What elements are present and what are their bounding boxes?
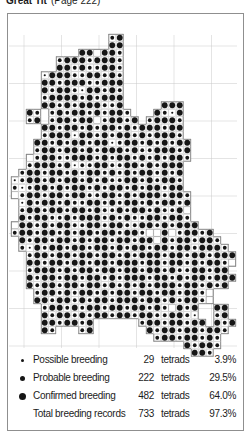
- legend-label: Confirmed breeding: [33, 389, 115, 403]
- legend-unit: tetrads: [161, 389, 189, 403]
- legend-label: Probable breeding: [33, 371, 110, 385]
- legend-count: 222: [112, 371, 154, 385]
- legend-count: 482: [112, 389, 154, 403]
- legend-row-total: Total breeding records 733 tetrads 97.3%: [7, 407, 236, 421]
- confirmed-dot-icon: [16, 389, 28, 403]
- legend-label: Possible breeding: [33, 353, 107, 367]
- legend-percentage: 3.9%: [190, 353, 236, 367]
- legend-percentage: 64.0%: [190, 389, 236, 403]
- no-symbol: [16, 407, 28, 421]
- legend-unit: tetrads: [161, 353, 189, 367]
- probable-dot-icon: [16, 371, 28, 385]
- legend-percentage: 29.5%: [190, 371, 236, 385]
- legend-unit: tetrads: [161, 371, 189, 385]
- possible-dot-icon: [16, 353, 28, 367]
- legend-count: 733: [112, 407, 154, 421]
- legend-row-confirmed: Confirmed breeding 482 tetrads 64.0%: [7, 389, 236, 403]
- legend: Possible breeding 29 tetrads 3.9% Probab…: [0, 0, 251, 434]
- legend-row-possible: Possible breeding 29 tetrads 3.9%: [7, 353, 236, 367]
- legend-row-probable: Probable breeding 222 tetrads 29.5%: [7, 371, 236, 385]
- legend-percentage: 97.3%: [190, 407, 236, 421]
- legend-count: 29: [112, 353, 154, 367]
- legend-unit: tetrads: [161, 407, 189, 421]
- atlas-page: Great Tit(Page 222) Possible breeding 29…: [0, 0, 251, 434]
